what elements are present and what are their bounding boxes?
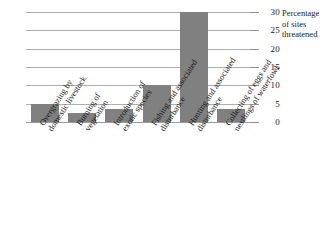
y-tick-label-5: 5	[262, 97, 280, 111]
y-tick-mark-30	[250, 12, 259, 13]
x-axis-labels: Overgrazing bydomestic livestockBurning …	[0, 122, 334, 229]
y-tick-label-20: 20	[262, 42, 280, 56]
y-axis-title-line-1: Percentage	[282, 8, 334, 19]
y-axis-title-line-3: threatened	[282, 29, 334, 40]
y-tick-mark-20	[250, 49, 259, 50]
y-tick-label-30: 30	[262, 5, 280, 19]
bar-chart: 302520151050 Percentage of sites threate…	[0, 0, 334, 229]
y-tick-label-25: 25	[262, 23, 280, 37]
y-tick-20: 20	[250, 49, 334, 50]
y-tick-mark-25	[250, 30, 259, 31]
y-axis-title: Percentage of sites threatened	[282, 8, 334, 40]
y-tick-5: 5	[250, 104, 334, 105]
y-axis-title-line-2: of sites	[282, 19, 334, 30]
